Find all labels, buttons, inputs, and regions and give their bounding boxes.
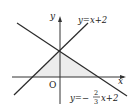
line2-label-prefix: y=− [69,93,89,103]
x-axis-label: x [118,76,123,86]
y-axis-arrow-icon [58,16,62,22]
line-y-eq-neg-two-thirds-x-plus-2 [17,23,127,96]
line2-label: y=− 2 3 x+2 [69,89,118,106]
y-axis-label: y [49,11,56,21]
fraction-numerator: 2 [94,89,98,97]
origin-label: O [49,80,56,90]
line2-label-suffix: x+2 [101,93,118,103]
coordinate-diagram: y x O y=x+2 y=− 2 3 x+2 [0,0,129,111]
fraction-denominator: 3 [94,98,98,106]
line1-label: y=x+2 [77,15,107,25]
